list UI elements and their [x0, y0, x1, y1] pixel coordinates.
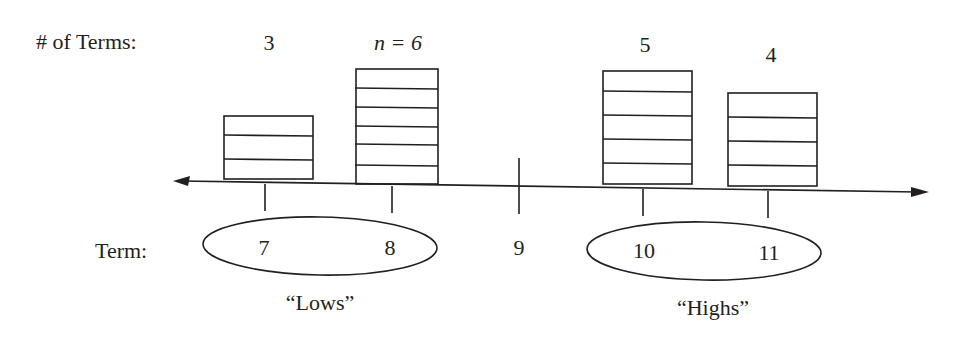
stack-term-11: [728, 93, 817, 186]
term-label-7: 7: [259, 237, 270, 259]
highs-group-label: “Highs”: [677, 297, 749, 319]
lows-group-ellipse: [203, 215, 438, 277]
count-label-term-11: 4: [766, 44, 777, 66]
right-arrow-icon: [911, 187, 929, 197]
term-label-8: 8: [385, 237, 396, 259]
stack-term-7: [224, 116, 313, 179]
count-label-term-10: 5: [640, 34, 651, 56]
highs-group-ellipse: [587, 220, 822, 282]
lows-group-label: “Lows”: [286, 292, 354, 314]
term-label-9: 9: [514, 237, 525, 259]
count-label-term-7: 3: [264, 32, 275, 54]
count-label-term-8: n = 6: [374, 32, 422, 54]
number-line-diagram: [0, 0, 954, 338]
count-row-label: # of Terms:: [36, 31, 137, 53]
term-label-11: 11: [758, 242, 779, 264]
left-arrow-icon: [173, 176, 190, 186]
stack-term-8: [355, 69, 438, 184]
stack-term-10: [603, 71, 692, 184]
term-row-label: Term:: [95, 240, 147, 262]
term-label-10: 10: [633, 240, 655, 262]
